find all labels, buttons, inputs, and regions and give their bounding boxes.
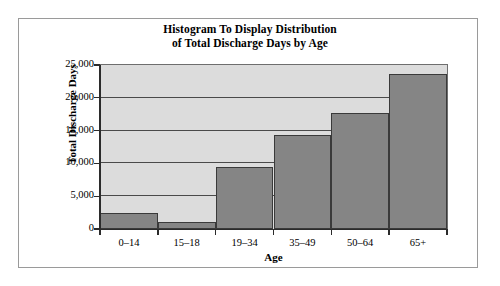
y-tick-5000 <box>94 196 100 197</box>
y-tick-label-10000: 10,000 <box>42 156 94 167</box>
bar-35–49 <box>274 135 332 229</box>
y-tick-0 <box>94 228 100 229</box>
y-tick-label-20000: 20,000 <box>42 91 94 102</box>
plot-frame-right <box>447 64 448 230</box>
x-tick-1 <box>157 229 158 235</box>
x-tick-0 <box>99 229 100 235</box>
chart-title-line-2: of Total Discharge Days by Age <box>60 36 440 50</box>
x-tick-6 <box>446 229 447 235</box>
y-tick-20000 <box>94 97 100 98</box>
x-tick-label-15–18: 15–18 <box>158 237 216 248</box>
x-tick-2 <box>215 229 216 235</box>
histogram-figure: Histogram To Display Distribution of Tot… <box>0 0 500 286</box>
x-tick-label-35–49: 35–49 <box>274 237 332 248</box>
y-tick-label-25000: 25,000 <box>42 58 94 69</box>
plot-frame-top <box>100 64 447 65</box>
y-tick-25000 <box>94 64 100 65</box>
x-tick-label-0–14: 0–14 <box>100 237 158 248</box>
y-tick-label-5000: 5,000 <box>42 189 94 200</box>
y-tick-label-15000: 15,000 <box>42 124 94 135</box>
y-tick-label-0: 0 <box>42 222 94 233</box>
x-tick-4 <box>331 229 332 235</box>
x-axis-title: Age <box>100 251 447 263</box>
bar-0–14 <box>100 213 158 229</box>
x-tick-5 <box>388 229 389 235</box>
x-tick-label-65+: 65+ <box>389 237 447 248</box>
x-tick-label-19–34: 19–34 <box>216 237 274 248</box>
y-axis-line <box>99 64 101 230</box>
chart-title: Histogram To Display Distribution of Tot… <box>60 22 440 50</box>
x-tick-3 <box>273 229 274 235</box>
y-tick-10000 <box>94 163 100 164</box>
bar-19–34 <box>216 167 274 229</box>
y-tick-15000 <box>94 130 100 131</box>
plot-area <box>100 65 447 229</box>
bar-65+ <box>389 74 447 229</box>
bar-50–64 <box>331 113 389 229</box>
chart-title-line-1: Histogram To Display Distribution <box>60 22 440 36</box>
x-tick-label-50–64: 50–64 <box>331 237 389 248</box>
y-axis-labels: Total Discharge Days 05,00010,00015,0002… <box>34 0 94 286</box>
